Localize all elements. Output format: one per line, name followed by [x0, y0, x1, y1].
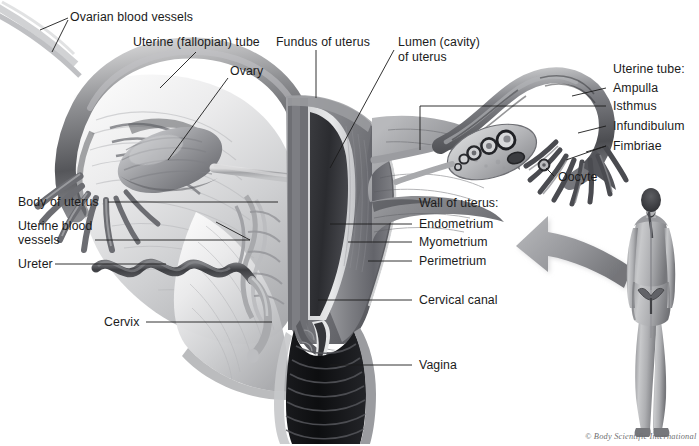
label-lumen-of-uterus-line1: Lumen (cavity)	[398, 35, 480, 50]
label-lumen-of-uterus-line2: of uterus	[398, 50, 447, 65]
label-perimetrium: Perimetrium	[419, 254, 486, 269]
ovarian-blood-vessels-art	[0, 2, 80, 76]
label-isthmus: Isthmus	[613, 99, 657, 114]
label-ampulla: Ampulla	[613, 81, 658, 96]
label-ureter: Ureter	[18, 257, 53, 272]
copyright-notice: © Body Scientific International	[585, 432, 696, 441]
anatomy-figure: Ovarian blood vessels Uterine (fallopian…	[0, 0, 699, 446]
label-fimbriae: Fimbriae	[613, 139, 662, 154]
label-fundus-of-uterus: Fundus of uterus	[276, 35, 370, 50]
label-uterine-blood-vessels-line1: Uterine blood	[18, 219, 92, 234]
label-wall-of-uterus-group: Wall of uterus:	[419, 196, 499, 211]
label-uterine-tube-group: Uterine tube:	[613, 62, 685, 77]
label-oocyte: Oocyte	[558, 170, 598, 185]
label-myometrium: Myometrium	[419, 235, 488, 250]
label-body-of-uterus: Body of uterus	[18, 195, 99, 210]
label-vagina: Vagina	[419, 358, 457, 373]
label-cervix: Cervix	[104, 315, 139, 330]
label-infundibulum: Infundibulum	[613, 119, 685, 134]
label-ovary: Ovary	[230, 64, 263, 79]
oocyte-art	[539, 160, 550, 171]
label-ovarian-blood-vessels: Ovarian blood vessels	[70, 10, 193, 25]
label-uterine-blood-vessels-line2: vessels	[18, 233, 60, 248]
orientation-arrow	[516, 216, 632, 288]
label-uterine-fallopian-tube: Uterine (fallopian) tube	[133, 35, 260, 50]
anatomy-illustration	[0, 0, 699, 446]
body-figure	[627, 188, 676, 437]
label-cervical-canal: Cervical canal	[419, 293, 498, 308]
label-endometrium: Endometrium	[419, 217, 493, 232]
